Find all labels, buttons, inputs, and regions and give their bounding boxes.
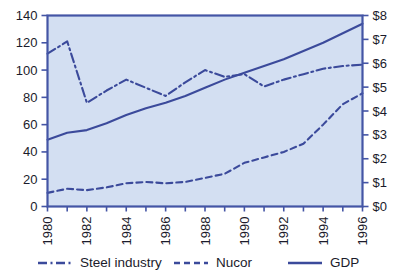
y2-tick-label: $4 bbox=[373, 104, 387, 119]
y-tick-label: 0 bbox=[30, 199, 37, 214]
x-tick-label: 1982 bbox=[79, 217, 94, 246]
y2-tick-label: $6 bbox=[373, 56, 387, 71]
legend-label-nucor: Nucor bbox=[216, 255, 253, 270]
y2-tick-label: $5 bbox=[373, 80, 387, 95]
x-tick-label: 1984 bbox=[119, 217, 134, 246]
x-tick-label: 1994 bbox=[316, 217, 331, 246]
chart-container: 020406080100120140 $0$1$2$3$4$5$6$7$8 19… bbox=[0, 0, 409, 278]
y-tick-label: 40 bbox=[23, 144, 37, 159]
legend-label-steel-industry: Steel industry bbox=[80, 255, 162, 270]
y-tick-label: 140 bbox=[16, 8, 38, 23]
x-tick-label: 1996 bbox=[355, 217, 370, 246]
x-tick-label: 1992 bbox=[276, 217, 291, 246]
y2-tick-label: $1 bbox=[373, 175, 387, 190]
y2-tick-label: $2 bbox=[373, 151, 387, 166]
x-tick-label: 1980 bbox=[40, 217, 55, 246]
y2-tick-label: $8 bbox=[373, 8, 387, 23]
x-axis-labels: 198019821984198619881990199219941996 bbox=[40, 217, 370, 246]
y2-tick-label: $3 bbox=[373, 127, 387, 142]
x-tick-label: 1990 bbox=[237, 217, 252, 246]
line-chart: 020406080100120140 $0$1$2$3$4$5$6$7$8 19… bbox=[0, 0, 409, 278]
y-tick-label: 80 bbox=[23, 90, 37, 105]
x-tick-label: 1988 bbox=[198, 217, 213, 246]
y2-tick-label: $7 bbox=[373, 32, 387, 47]
y-tick-label: 20 bbox=[23, 172, 37, 187]
y-tick-label: 120 bbox=[16, 35, 38, 50]
x-tick-label: 1986 bbox=[158, 217, 173, 246]
y2-tick-label: $0 bbox=[373, 199, 387, 214]
legend-label-gdp: GDP bbox=[330, 255, 359, 270]
y-tick-label: 100 bbox=[16, 63, 38, 78]
y-tick-label: 60 bbox=[23, 117, 37, 132]
y-axis-right-labels: $0$1$2$3$4$5$6$7$8 bbox=[373, 8, 387, 214]
